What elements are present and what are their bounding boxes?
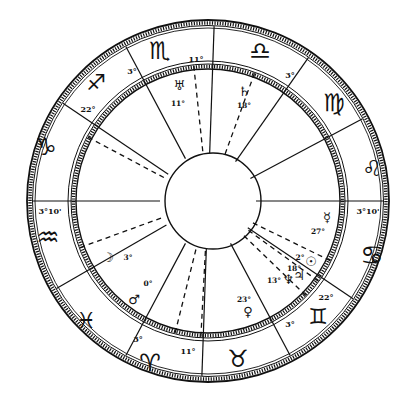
- cusp-label-3: 11°: [188, 54, 203, 64]
- cusp-label-1: 22°: [80, 104, 95, 114]
- mercury-icon: ☿: [323, 210, 331, 225]
- planet-line-1: [194, 66, 203, 152]
- cusp-label-0: 3°10': [38, 206, 61, 216]
- horoscope-chart: ♒♑♐♏♎♍♌♋♊♉♈♓ 3°10'22°3°11°3°3°10'22°3°11…: [0, 0, 417, 400]
- mars-icon: ♂: [128, 292, 140, 307]
- cusp-label-8: 3°: [285, 319, 295, 329]
- cusp-label-4: 3°: [285, 70, 295, 80]
- mercury-degree: 27°: [311, 227, 325, 236]
- center-circle: [165, 153, 261, 249]
- neptune-icon: ♆: [282, 272, 294, 287]
- cusp-line-5: [250, 119, 362, 179]
- venus-degree: 23°: [237, 295, 251, 304]
- jupiter-degree: 18°: [287, 264, 301, 273]
- pisces-icon: ♓: [76, 308, 96, 333]
- planet-line-7: [175, 250, 196, 333]
- taurus-icon: ♉: [227, 345, 249, 373]
- cusp-label-6: 3°10': [356, 206, 379, 216]
- sagittarius-icon: ♐: [86, 70, 106, 95]
- cusp-label-10: 3°: [133, 334, 143, 344]
- uranus-degree: 11°: [171, 99, 185, 108]
- cusp-label-2: 3°: [127, 66, 137, 76]
- cusp-line-9: [202, 249, 206, 376]
- cusp-line-3: [210, 26, 214, 153]
- saturn-icon: ♄: [238, 84, 250, 99]
- scorpio-icon: ♏: [149, 37, 171, 65]
- gemini-icon: ♊: [308, 304, 328, 329]
- planet-line-0: [88, 137, 164, 177]
- libra-icon: ♎: [249, 37, 271, 65]
- uranus-icon: ♅: [173, 78, 185, 93]
- cusp-label-9: 11°: [180, 346, 195, 356]
- moon-icon: ☽: [102, 250, 114, 265]
- cancer-icon: ♋: [360, 240, 383, 270]
- saturn-degree: 18°: [237, 101, 251, 110]
- virgo-icon: ♍: [323, 89, 345, 117]
- venus-icon: ♀: [243, 304, 253, 319]
- capricorn-icon: ♑: [35, 133, 57, 161]
- aries-icon: ♈: [139, 349, 161, 377]
- leo-icon: ♌: [362, 156, 382, 181]
- aquarius-icon: ♒: [36, 222, 59, 252]
- cusp-label-7: 22°: [318, 292, 333, 302]
- sun-degree: 2°: [296, 253, 305, 262]
- sun-icon: ☉: [305, 254, 317, 269]
- mars-degree: 0°: [144, 279, 153, 288]
- neptune-degree: 13°: [267, 276, 281, 285]
- moon-degree: 3°: [124, 253, 133, 262]
- planet-line-8: [80, 218, 161, 247]
